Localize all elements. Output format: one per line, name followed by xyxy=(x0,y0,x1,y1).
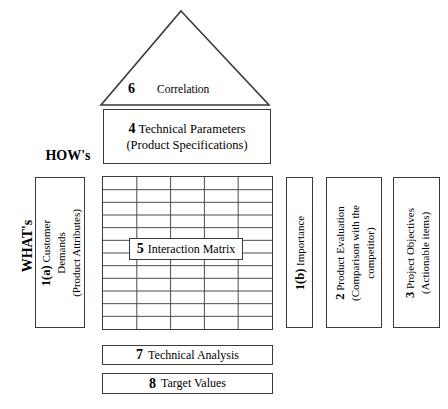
technical-parameters-line1: 4 Technical Parameters xyxy=(129,120,246,138)
whats-axis-label: WHAT's xyxy=(20,211,36,281)
customer-demands-line2: Demands xyxy=(55,232,67,274)
correlation-number: 6 xyxy=(128,81,135,97)
technical-parameters-box: 4 Technical Parameters (Product Specific… xyxy=(103,109,271,164)
technical-analysis-box: 7 Technical Analysis xyxy=(102,345,273,365)
target-values-number: 8 xyxy=(149,375,156,393)
qfd-house-of-quality-diagram: 6 Correlation 4 Technical Parameters (Pr… xyxy=(0,0,448,409)
technical-analysis-number: 7 xyxy=(136,346,143,364)
product-evaluation-number: 2 xyxy=(333,293,347,299)
correlation-text: Correlation xyxy=(157,83,209,95)
customer-demands-line3: (Product Attributes) xyxy=(69,209,81,297)
project-objectives-number: 3 xyxy=(402,291,416,297)
interaction-matrix-number: 5 xyxy=(137,241,144,257)
technical-parameters-number: 4 xyxy=(129,121,136,136)
technical-analysis-label: Technical Analysis xyxy=(148,348,239,363)
target-values-box: 8 Target Values xyxy=(102,373,273,394)
customer-demands-text: 1(a) Customer Demands (Product Attribute… xyxy=(38,209,83,297)
technical-parameters-title: Technical Parameters xyxy=(138,122,245,136)
product-evaluation-text: 2 Product Evaluation (Comparison with th… xyxy=(332,205,377,301)
customer-demands-box: 1(a) Customer Demands (Product Attribute… xyxy=(35,177,85,328)
importance-box: 1(b) Importance xyxy=(286,177,313,328)
product-evaluation-box: 2 Product Evaluation (Comparison with th… xyxy=(326,177,382,328)
importance-number: 1(b) xyxy=(292,268,306,290)
target-values-label: Target Values xyxy=(161,376,226,391)
product-evaluation-line2: (Comparison with the xyxy=(349,205,361,301)
interaction-matrix-label: 5 Interaction Matrix xyxy=(129,238,243,260)
customer-demands-number: 1(a) xyxy=(39,265,53,286)
project-objectives-line1: Project Objectives xyxy=(403,208,415,289)
project-objectives-line2: (Actionable items) xyxy=(418,211,430,293)
importance-label: Importance xyxy=(293,215,305,265)
project-objectives-box: 3 Project Objectives (Actionable items) xyxy=(393,177,440,328)
customer-demands-line1: Customer xyxy=(40,219,52,262)
product-evaluation-line1: Product Evaluation xyxy=(334,206,346,291)
correlation-label: 6 Correlation xyxy=(128,79,248,99)
hows-axis-label: HOW's xyxy=(36,148,100,164)
product-evaluation-line3: competitor) xyxy=(363,227,375,278)
interaction-matrix-title: Interaction Matrix xyxy=(148,242,236,257)
technical-parameters-subtitle: (Product Specifications) xyxy=(126,138,247,154)
importance-text: 1(b) Importance xyxy=(291,215,307,289)
interaction-matrix-grid[interactable]: 5 Interaction Matrix xyxy=(102,176,273,330)
project-objectives-text: 3 Project Objectives (Actionable items) xyxy=(401,208,432,298)
